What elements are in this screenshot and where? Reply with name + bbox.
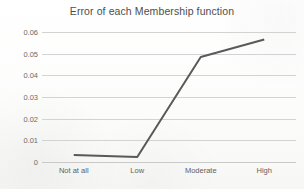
x-tick-label: Moderate xyxy=(185,166,217,175)
x-axis-tick-labels: Not at allLowModerateHigh xyxy=(42,166,296,180)
y-tick-label: 0.03 xyxy=(0,93,38,102)
x-tick-label: Low xyxy=(130,166,144,175)
y-tick-label: 0.05 xyxy=(0,49,38,58)
gridline xyxy=(42,162,296,163)
chart-container: Error of each Membership function 0.060.… xyxy=(0,0,304,189)
y-tick-label: 0.01 xyxy=(0,136,38,145)
x-tick-label: Not at all xyxy=(59,166,89,175)
y-tick-label: 0.06 xyxy=(0,28,38,37)
series-line-error xyxy=(42,32,296,162)
y-tick-label: 0.04 xyxy=(0,71,38,80)
series-polyline xyxy=(74,40,265,157)
plot-area xyxy=(42,32,296,162)
y-tick-label: 0 xyxy=(0,158,38,167)
x-tick-label: High xyxy=(257,166,272,175)
y-tick-label: 0.02 xyxy=(0,114,38,123)
chart-title: Error of each Membership function xyxy=(0,5,304,17)
y-axis-tick-labels: 0.060.050.040.030.020.010 xyxy=(0,32,38,162)
